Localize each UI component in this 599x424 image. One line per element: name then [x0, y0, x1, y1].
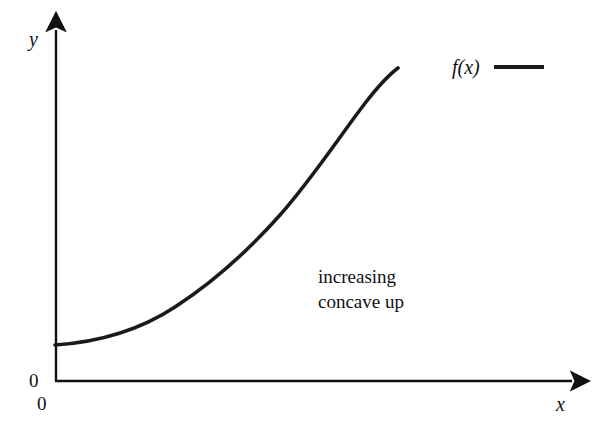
annotation-line-1: increasing — [318, 264, 404, 289]
legend-label: f(x) — [452, 57, 480, 77]
legend: f(x) — [452, 57, 544, 77]
y-axis-origin-tick-label: 0 — [29, 371, 39, 390]
annotation-line-2: concave up — [318, 289, 404, 314]
x-axis-label: x — [556, 394, 565, 414]
legend-line-swatch — [494, 65, 544, 69]
curve-annotation: increasing concave up — [318, 264, 404, 314]
function-graph-figure: y x 0 0 increasing concave up f(x) — [0, 0, 599, 424]
y-axis-label: y — [29, 29, 38, 49]
x-axis-origin-tick-label: 0 — [37, 394, 47, 413]
